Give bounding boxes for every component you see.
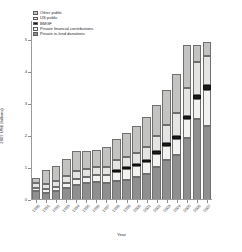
bar-segment xyxy=(62,176,71,183)
y-axis-tick xyxy=(28,168,31,169)
x-axis-tick-label: 2005 xyxy=(183,204,192,213)
bar-segment xyxy=(122,180,131,200)
y-axis-tick xyxy=(28,72,31,73)
bar-segment xyxy=(112,181,121,200)
bar-segment xyxy=(112,160,121,169)
bar-segment xyxy=(162,125,171,144)
bar-segment xyxy=(152,167,161,200)
y-axis-tick xyxy=(28,104,31,105)
bar-segment xyxy=(162,146,171,160)
y-axis-tick-label: 5 xyxy=(25,38,27,42)
bar-1993 xyxy=(62,159,71,200)
bar-2000 xyxy=(132,126,141,200)
bar-2005 xyxy=(183,45,192,200)
bar-segment xyxy=(72,185,81,200)
plot-area: 012345 xyxy=(31,21,212,200)
bar-segment xyxy=(82,177,91,184)
bar-segment xyxy=(112,172,121,182)
y-axis-tick-label: 2 xyxy=(25,134,27,138)
legend-label: US public xyxy=(40,16,58,20)
x-axis-line xyxy=(31,199,212,200)
bar-segment xyxy=(92,182,101,200)
bar-2007 xyxy=(203,42,212,200)
bar-segment xyxy=(152,154,161,167)
bar-2001 xyxy=(142,117,151,200)
bar-segment xyxy=(82,169,91,177)
legend-swatch-icon xyxy=(33,27,38,31)
bar-1996 xyxy=(92,150,101,200)
bar-2002 xyxy=(152,105,161,200)
bar-segment xyxy=(142,147,151,160)
bar-segment xyxy=(92,175,101,182)
y-axis-tick xyxy=(28,40,31,41)
bar-segment xyxy=(203,126,212,200)
bar-segment xyxy=(142,174,151,200)
bar-segment xyxy=(142,117,151,146)
bar-2006 xyxy=(193,45,202,200)
bar-1998 xyxy=(112,139,121,200)
bar-segment xyxy=(132,153,141,165)
bar-segment xyxy=(152,105,161,136)
chart-legend: Other publicUS publicBMGFPrivate financi… xyxy=(33,11,93,36)
bar-segment xyxy=(162,90,171,125)
x-axis-tick-label: 1994 xyxy=(72,204,81,213)
x-axis-tick-label: 2000 xyxy=(132,204,141,213)
bar-segment xyxy=(82,183,91,200)
bars-container xyxy=(31,21,212,200)
bar-segment xyxy=(193,99,202,119)
bar-2003 xyxy=(162,90,171,200)
x-axis-tick-label: 2007 xyxy=(203,204,212,213)
y-axis-tick xyxy=(28,136,31,137)
x-axis-tick-label: 2004 xyxy=(172,204,181,213)
bar-segment xyxy=(193,62,202,95)
bar-segment xyxy=(172,155,181,200)
y-axis-tick-label: 3 xyxy=(25,102,27,106)
x-axis-tick-label: 1992 xyxy=(52,204,61,213)
bar-segment xyxy=(193,119,202,200)
bar-segment xyxy=(142,162,151,174)
bar-1990 xyxy=(32,178,41,200)
bar-1997 xyxy=(102,147,111,200)
legend-item: US public xyxy=(33,16,93,20)
bar-segment xyxy=(92,150,101,168)
x-axis-tick-label: 1996 xyxy=(92,204,101,213)
bar-segment xyxy=(42,170,51,183)
x-axis-tick-label: 1998 xyxy=(112,204,121,213)
y-axis-title: 2007 US$ (billions) xyxy=(0,91,4,161)
bar-segment xyxy=(172,139,181,155)
bar-segment xyxy=(112,139,121,160)
bar-segment xyxy=(62,159,71,176)
y-axis-line xyxy=(31,21,32,200)
bar-segment xyxy=(193,45,202,62)
bar-segment xyxy=(203,90,212,126)
legend-item: Private in-kind donations xyxy=(33,32,93,36)
legend-label: Private in-kind donations xyxy=(40,32,85,36)
x-axis-title: Year xyxy=(31,233,212,237)
legend-swatch-icon xyxy=(33,22,38,26)
bar-1991 xyxy=(42,170,51,200)
x-axis-tick-label: 2003 xyxy=(162,204,171,213)
legend-swatch-icon xyxy=(33,11,38,15)
x-axis-tick-label: 1990 xyxy=(32,204,41,213)
x-axis-tick-label: 2002 xyxy=(152,204,161,213)
y-axis-tick-label: 1 xyxy=(25,166,27,170)
bar-segment xyxy=(122,169,131,180)
bar-segment xyxy=(172,113,181,135)
bar-segment xyxy=(82,151,91,170)
bar-segment xyxy=(102,183,111,200)
bar-segment xyxy=(122,133,131,157)
legend-swatch-icon xyxy=(33,17,38,21)
x-axis-tick-label: 1999 xyxy=(122,204,131,213)
x-axis-tick-label: 1991 xyxy=(42,204,51,213)
bar-segment xyxy=(183,45,192,88)
x-axis-tick-label: 2001 xyxy=(142,204,151,213)
legend-swatch-icon xyxy=(33,32,38,36)
bar-segment xyxy=(72,151,81,171)
x-axis-tick-label: 1993 xyxy=(62,204,71,213)
bar-segment xyxy=(183,138,192,200)
bar-segment xyxy=(183,119,192,138)
bar-1999 xyxy=(122,133,131,200)
y-axis-tick-label: 4 xyxy=(25,70,27,74)
bar-1995 xyxy=(82,151,91,201)
bar-segment xyxy=(152,136,161,151)
